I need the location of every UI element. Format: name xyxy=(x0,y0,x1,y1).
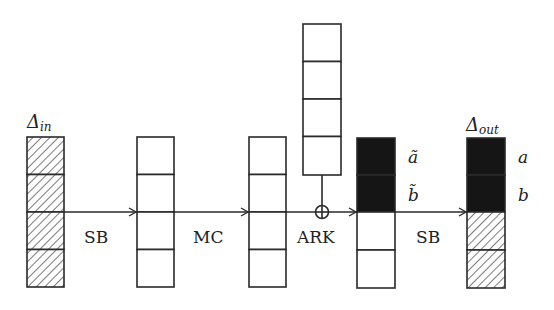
cell xyxy=(27,137,64,175)
cell-active xyxy=(357,175,395,212)
delta-out-label: Δout xyxy=(465,114,499,137)
cell xyxy=(137,137,174,175)
state-delta-out xyxy=(467,138,505,288)
label-b-tilde: b̃ xyxy=(408,184,419,205)
state-after-ark xyxy=(357,138,395,288)
cell xyxy=(137,250,174,288)
op-label-mc: MC xyxy=(193,227,223,247)
cell-active xyxy=(467,138,505,175)
cell xyxy=(357,212,395,250)
cell xyxy=(27,250,64,288)
cell xyxy=(357,250,395,288)
aes-differential-diagram: SB MC ARK SB Δin Δout ã b̃ a b xyxy=(0,0,554,310)
label-b: b xyxy=(518,185,529,205)
cell xyxy=(303,99,341,137)
op-label-sb2: SB xyxy=(416,227,440,247)
op-label-ark: ARK xyxy=(296,227,335,247)
state-after-mc xyxy=(249,137,286,287)
cell xyxy=(249,212,286,250)
cell xyxy=(467,212,505,250)
cell-active xyxy=(467,175,505,212)
cell xyxy=(137,175,174,213)
label-a: a xyxy=(518,147,528,167)
cell xyxy=(467,250,505,288)
cell-active xyxy=(357,138,395,175)
state-delta-in xyxy=(27,137,64,287)
op-label-sb1: SB xyxy=(84,227,108,247)
state-round-key xyxy=(303,24,341,175)
cell xyxy=(303,24,341,62)
delta-in-label: Δin xyxy=(26,111,52,134)
cell xyxy=(27,175,64,213)
xor-icon xyxy=(316,206,329,219)
state-after-sb xyxy=(137,137,174,287)
cell xyxy=(137,212,174,250)
cell xyxy=(249,250,286,288)
label-a-tilde: ã xyxy=(408,147,418,167)
cell xyxy=(303,62,341,100)
cell xyxy=(27,212,64,250)
cell xyxy=(303,137,341,176)
cell xyxy=(249,137,286,175)
cell xyxy=(249,175,286,213)
